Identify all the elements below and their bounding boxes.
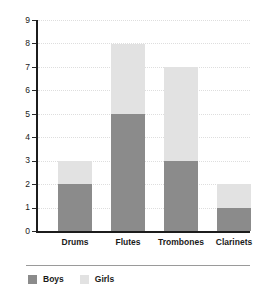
y-axis-label-7: 7 xyxy=(10,63,30,72)
y-axis-label-6: 6 xyxy=(10,86,30,95)
y-axis-label-3: 3 xyxy=(10,156,30,165)
legend-label-boys: Boys xyxy=(43,275,64,284)
x-axis-label-flutes: Flutes xyxy=(98,238,158,247)
y-axis-label-0: 0 xyxy=(10,227,30,236)
legend-swatch-boys-icon xyxy=(28,275,37,284)
bar-segment-drums-boys[interactable] xyxy=(58,184,92,231)
x-axis-label-drums: Drums xyxy=(45,238,105,247)
bar-segment-clarinets-girls[interactable] xyxy=(217,184,251,207)
legend: Boys Girls xyxy=(28,275,114,284)
bar-group-trombones[interactable] xyxy=(164,67,198,231)
bar-segment-trombones-boys[interactable] xyxy=(164,161,198,231)
y-axis-label-9: 9 xyxy=(10,16,30,25)
legend-item-boys[interactable]: Boys xyxy=(28,275,64,284)
plot-area: 9 8 7 6 5 4 3 2 1 0 xyxy=(0,0,276,245)
y-axis-label-2: 2 xyxy=(10,180,30,189)
bar-segment-drums-girls[interactable] xyxy=(58,161,92,184)
x-axis-line xyxy=(36,231,250,233)
legend-item-girls[interactable]: Girls xyxy=(80,275,114,284)
x-axis-label-trombones: Trombones xyxy=(151,238,211,247)
bar-segment-clarinets-boys[interactable] xyxy=(217,208,251,231)
bar-group-drums[interactable] xyxy=(58,161,92,231)
bar-segment-flutes-boys[interactable] xyxy=(111,114,145,231)
legend-divider xyxy=(26,265,250,266)
y-axis-label-4: 4 xyxy=(10,133,30,142)
y-axis-label-8: 8 xyxy=(10,39,30,48)
y-axis-line xyxy=(36,20,38,232)
legend-label-girls: Girls xyxy=(95,275,114,284)
stacked-bar-chart: 9 8 7 6 5 4 3 2 1 0 xyxy=(0,0,276,297)
bar-segment-trombones-girls[interactable] xyxy=(164,67,198,161)
y-axis-label-1: 1 xyxy=(10,203,30,212)
legend-swatch-girls-icon xyxy=(80,275,89,284)
bar-group-clarinets[interactable] xyxy=(217,184,251,231)
bar-group-flutes[interactable] xyxy=(111,43,145,231)
x-axis-label-clarinets: Clarinets xyxy=(204,238,264,247)
bars-layer xyxy=(36,20,250,231)
y-axis-label-5: 5 xyxy=(10,110,30,119)
bar-segment-flutes-girls[interactable] xyxy=(111,44,145,114)
